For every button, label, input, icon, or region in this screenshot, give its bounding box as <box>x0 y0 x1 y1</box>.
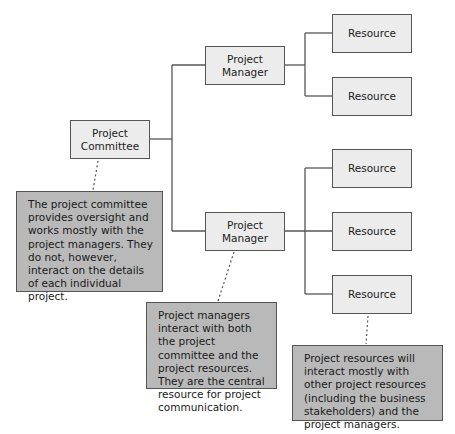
node-label: Project <box>222 219 268 232</box>
resource-node-2: Resource <box>332 77 412 116</box>
node-label: Manager <box>222 66 268 79</box>
note-text: Project resources will interact mostly w… <box>304 352 426 430</box>
org-chart-diagram: Project Committee Project Manager Projec… <box>0 0 455 434</box>
node-label: Manager <box>222 232 268 245</box>
project-manager-bottom-node: Project Manager <box>205 212 285 251</box>
node-label: Resource <box>348 225 396 238</box>
node-label: Resource <box>348 27 396 40</box>
note-text: Project managers interact with both the … <box>158 309 265 413</box>
resource-node-3: Resource <box>332 149 412 188</box>
node-label: Project <box>81 127 139 140</box>
project-committee-node: Project Committee <box>70 120 150 159</box>
node-label: Project <box>222 53 268 66</box>
resource-callout-note: Project resources will interact mostly w… <box>292 345 443 421</box>
node-label: Committee <box>81 140 139 153</box>
node-label: Resource <box>348 162 396 175</box>
resource-node-4: Resource <box>332 212 412 251</box>
node-label: Resource <box>348 90 396 103</box>
project-manager-top-node: Project Manager <box>205 46 285 85</box>
resource-node-5: Resource <box>332 275 412 314</box>
note-text: The project committee provides oversight… <box>28 198 153 302</box>
node-label: Resource <box>348 288 396 301</box>
resource-node-1: Resource <box>332 14 412 53</box>
committee-callout-note: The project committee provides oversight… <box>16 191 163 292</box>
manager-callout-note: Project managers interact with both the … <box>146 302 277 389</box>
